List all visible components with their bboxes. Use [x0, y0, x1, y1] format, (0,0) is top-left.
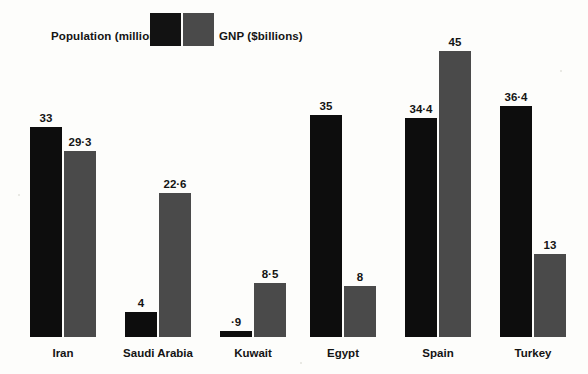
bar-rect: [30, 127, 62, 337]
bar-value-label: 29·3: [64, 136, 96, 148]
bar-rect: [405, 118, 437, 337]
bar-group: 422·6Saudi Arabia: [125, 37, 191, 337]
bar-value-label: 34·4: [405, 103, 437, 115]
bar-group: 34·445Spain: [405, 37, 471, 337]
bar-rect: [439, 51, 471, 337]
bar-population: 4: [125, 37, 157, 337]
paper-speck: [18, 194, 20, 196]
bar-rect: [310, 115, 342, 337]
bar-group: 36·413Turkey: [500, 37, 566, 337]
bar-gnp: 8·5: [254, 37, 286, 337]
bar-value-label: ·9: [220, 316, 252, 328]
bar-group: 358Egypt: [310, 37, 376, 337]
bar-gnp: 45: [439, 37, 471, 337]
bar-rect: [220, 331, 252, 337]
bar-population: 36·4: [500, 37, 532, 337]
plot-area: 3329·3Iran422·6Saudi Arabia·98·5Kuwait35…: [0, 0, 588, 374]
bar-rect: [64, 151, 96, 337]
paper-speck: [560, 70, 562, 72]
bar-group: ·98·5Kuwait: [220, 37, 286, 337]
bar-rect: [125, 312, 157, 337]
bar-gnp: 8: [344, 37, 376, 337]
bar-rect: [344, 286, 376, 337]
category-label: Saudi Arabia: [107, 347, 209, 359]
bar-value-label: 13: [534, 239, 566, 251]
category-label: Spain: [387, 347, 489, 359]
bar-rect: [254, 283, 286, 337]
bar-value-label: 4: [125, 297, 157, 309]
bar-rect: [159, 193, 191, 337]
category-label: Iran: [12, 347, 114, 359]
bar-value-label: 36·4: [500, 91, 532, 103]
bar-population: 34·4: [405, 37, 437, 337]
bar-value-label: 8·5: [254, 268, 286, 280]
bar-population: 35: [310, 37, 342, 337]
bar-group: 3329·3Iran: [30, 37, 96, 337]
bar-population: ·9: [220, 37, 252, 337]
bar-rect: [500, 106, 532, 337]
bar-population: 33: [30, 37, 62, 337]
bar-gnp: 13: [534, 37, 566, 337]
bar-value-label: 45: [439, 36, 471, 48]
bar-gnp: 22·6: [159, 37, 191, 337]
category-label: Turkey: [482, 347, 584, 359]
bar-value-label: 22·6: [159, 178, 191, 190]
bar-gnp: 29·3: [64, 37, 96, 337]
bar-rect: [534, 254, 566, 337]
bar-value-label: 35: [310, 100, 342, 112]
bar-chart: Population (millions) GNP ($billions) 33…: [0, 0, 588, 374]
category-label: Egypt: [292, 347, 394, 359]
bar-value-label: 8: [344, 271, 376, 283]
category-label: Kuwait: [202, 347, 304, 359]
paper-speck: [300, 362, 302, 364]
bar-value-label: 33: [30, 112, 62, 124]
